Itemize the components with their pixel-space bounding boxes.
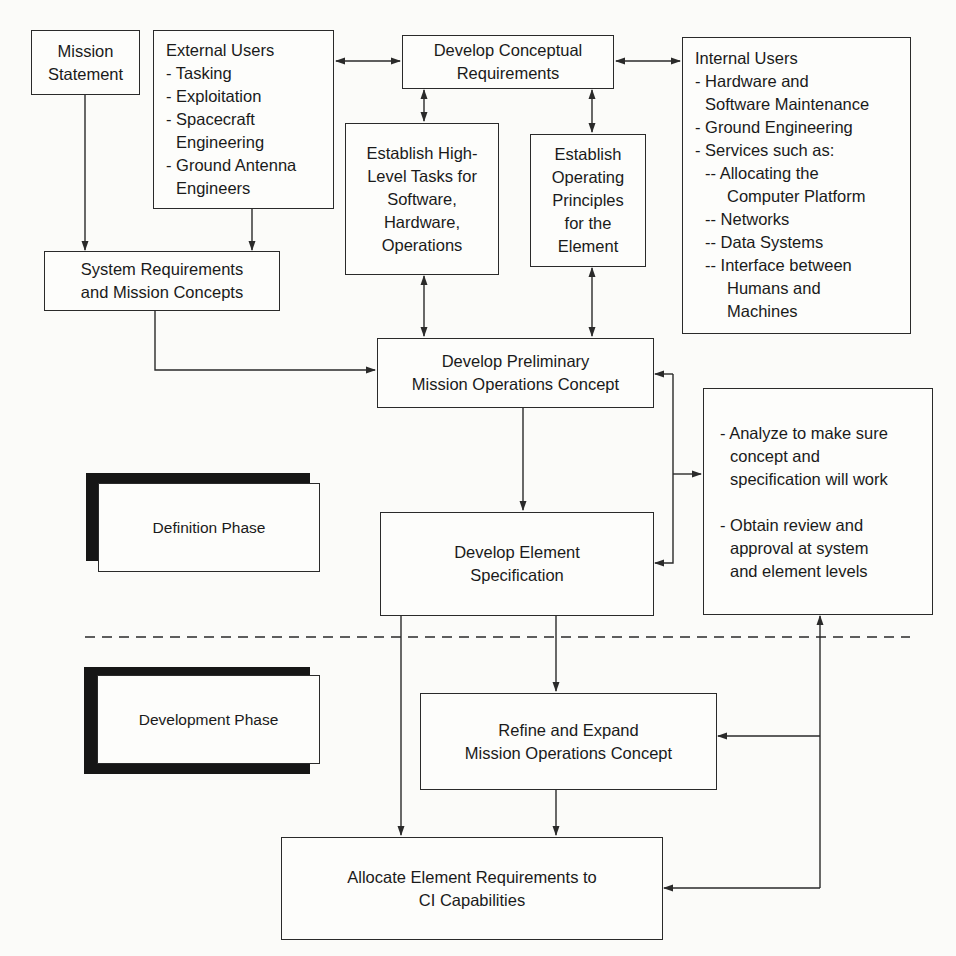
node-title: External Users <box>166 39 333 62</box>
node-label: Hardware, <box>384 211 460 234</box>
node-label: Establish <box>555 143 622 166</box>
node-establish-operating-principles: Establish Operating Principles for the E… <box>530 134 646 267</box>
list-item: concept and <box>720 445 932 468</box>
node-label: Develop Conceptual <box>434 39 583 62</box>
edge-sysreq-to-prelim <box>155 310 375 370</box>
node-label: Develop Element <box>454 541 580 564</box>
list-item: - Exploitation <box>166 85 333 108</box>
list-item: specification will work <box>720 468 932 491</box>
node-label: Statement <box>48 63 123 86</box>
phase-label: Development Phase <box>139 711 279 729</box>
list-item: -- Data Systems <box>695 231 910 254</box>
list-item: and element levels <box>720 560 932 583</box>
node-refine-expand-moc: Refine and Expand Mission Operations Con… <box>420 693 717 790</box>
node-label: Operations <box>382 234 463 257</box>
node-analyze-review: - Analyze to make sure concept and speci… <box>703 388 933 615</box>
list-item: -- Interface between <box>695 254 910 277</box>
list-item: - Obtain review and <box>720 514 932 537</box>
list-item: -- Allocating the <box>695 162 910 185</box>
node-label: Mission Operations Concept <box>412 373 619 396</box>
list-item: - Ground Engineering <box>695 116 910 139</box>
node-develop-preliminary-moc: Develop Preliminary Mission Operations C… <box>377 338 654 408</box>
node-label: Develop Preliminary <box>442 350 590 373</box>
list-item: - Hardware and <box>695 70 910 93</box>
list-item: - Ground Antenna <box>166 154 333 177</box>
node-label: Element <box>558 235 619 258</box>
node-label: Establish High- <box>367 142 478 165</box>
node-title: Internal Users <box>695 47 910 70</box>
node-label: Mission <box>58 40 114 63</box>
node-system-requirements: System Requirements and Mission Concepts <box>44 251 280 311</box>
node-label: Allocate Element Requirements to <box>347 866 596 889</box>
node-label: for the <box>565 212 612 235</box>
node-establish-high-level-tasks: Establish High- Level Tasks for Software… <box>345 123 499 275</box>
list-item: Humans and <box>695 277 910 300</box>
list-item: Engineers <box>166 177 333 200</box>
definition-phase-label: Definition Phase <box>98 483 320 572</box>
development-phase-label: Development Phase <box>97 675 320 764</box>
node-label: Level Tasks for <box>367 165 477 188</box>
node-mission-statement: Mission Statement <box>31 30 140 95</box>
list-item: - Analyze to make sure <box>720 422 932 445</box>
node-label: Requirements <box>457 62 560 85</box>
node-develop-element-specification: Develop Element Specification <box>380 512 654 616</box>
node-label: Specification <box>470 564 564 587</box>
node-label: CI Capabilities <box>419 889 525 912</box>
list-item: approval at system <box>720 537 932 560</box>
node-internal-users: Internal Users - Hardware and Software M… <box>682 37 911 334</box>
list-item: Engineering <box>166 131 333 154</box>
edge-analyze-to-prelim <box>655 374 673 563</box>
node-label: and Mission Concepts <box>81 281 243 304</box>
list-item: Machines <box>695 300 910 323</box>
node-label: Software, <box>387 188 457 211</box>
node-label: Mission Operations Concept <box>465 742 672 765</box>
list-item: - Services such as: <box>695 139 910 162</box>
node-develop-conceptual-requirements: Develop Conceptual Requirements <box>402 35 614 89</box>
node-external-users: External Users - Tasking - Exploitation … <box>153 30 334 209</box>
node-label: Refine and Expand <box>498 719 638 742</box>
list-item: - Spacecraft <box>166 108 333 131</box>
list-item: -- Networks <box>695 208 910 231</box>
node-label: System Requirements <box>81 258 243 281</box>
node-label: Principles <box>552 189 624 212</box>
node-allocate-requirements: Allocate Element Requirements to CI Capa… <box>281 837 663 940</box>
list-item: Computer Platform <box>695 185 910 208</box>
list-item: Software Maintenance <box>695 93 910 116</box>
phase-label: Definition Phase <box>153 519 266 537</box>
node-label: Operating <box>552 166 624 189</box>
list-item: - Tasking <box>166 62 333 85</box>
